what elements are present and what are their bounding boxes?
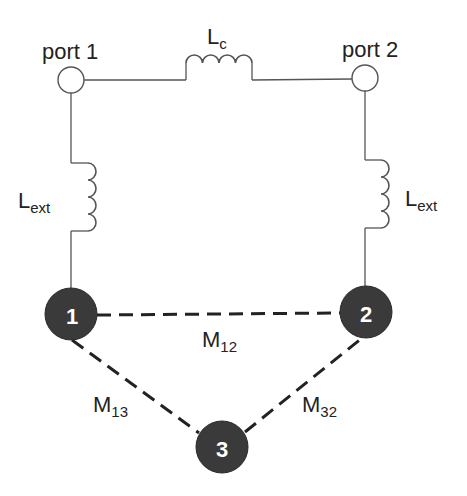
external-inductor-right <box>381 160 389 228</box>
node-3-label: 3 <box>216 437 228 462</box>
node-2-label: 2 <box>360 302 372 327</box>
coupling-line-m13 <box>72 340 199 433</box>
resonator-node-1: 1 <box>45 288 97 340</box>
resonator-node-2: 2 <box>340 286 392 338</box>
left-branch <box>71 93 96 288</box>
port-1-terminal <box>58 67 84 93</box>
lext-right-label: Lext <box>405 186 438 214</box>
right-branch <box>365 91 389 286</box>
m12-label: M12 <box>202 327 237 355</box>
coupling-line-m12 <box>97 313 340 315</box>
lext-left-label: Lext <box>18 188 51 216</box>
lc-label: Lc <box>207 24 227 52</box>
m32-label: M32 <box>302 392 337 420</box>
external-inductor-left <box>88 163 96 231</box>
coupling-inductor-lc <box>186 55 252 63</box>
port-2-label: port 2 <box>342 37 398 62</box>
resonator-node-3: 3 <box>196 421 248 473</box>
port-1-label: port 1 <box>42 39 98 64</box>
m13-label: M13 <box>93 392 128 420</box>
port-2-terminal <box>352 65 378 91</box>
top-wire <box>84 63 352 80</box>
coupled-resonator-diagram: 1 2 3 port 1 port 2 Lc Lext Lext M12 M13… <box>0 0 467 496</box>
coupling-line-m32 <box>245 338 362 432</box>
node-1-label: 1 <box>66 304 78 329</box>
